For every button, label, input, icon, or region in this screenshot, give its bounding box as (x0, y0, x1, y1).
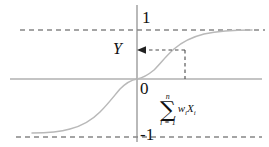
sigma-icon: ∑ (160, 100, 176, 119)
figure-canvas (0, 0, 269, 147)
output-label-y: Y (113, 41, 122, 57)
weight-symbol: w (178, 102, 185, 114)
upper-asymptote-label: 1 (142, 9, 151, 26)
lower-asymptote-label: -1 (140, 126, 154, 143)
sigma-stack: n ∑ i = 1 (160, 93, 176, 127)
summation-body: wiXi (178, 103, 196, 117)
input-subscript: i (194, 109, 196, 117)
input-symbol: X (187, 102, 194, 114)
sigmoid-function-figure: 1 -1 0 Y n ∑ i = 1 wiXi (0, 0, 269, 147)
output-arrowhead-icon (137, 46, 146, 54)
origin-label: 0 (140, 80, 149, 97)
summation-lower-limit: i = 1 (160, 119, 176, 127)
summation-expression: n ∑ i = 1 wiXi (160, 93, 196, 127)
